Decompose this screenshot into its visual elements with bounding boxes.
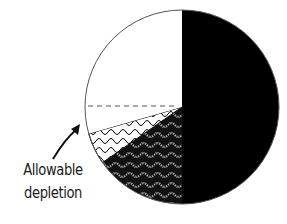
annotation-label-depletion: depletion	[8, 185, 98, 201]
annotation-arrow-icon	[53, 130, 76, 159]
pie-slice-solid	[182, 10, 279, 204]
annotation-label-allowable: Allowable	[8, 162, 98, 178]
pie-slice-white-upper	[85, 10, 182, 107]
pie-slices	[85, 10, 279, 204]
